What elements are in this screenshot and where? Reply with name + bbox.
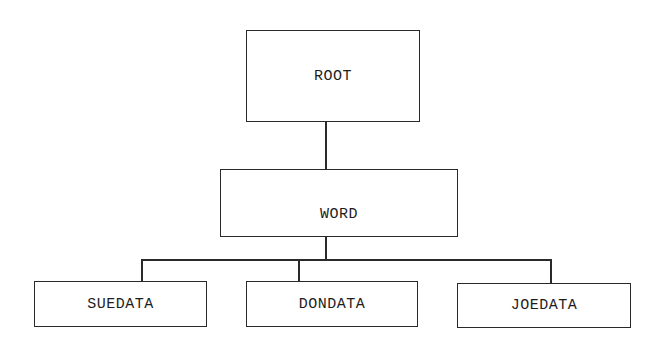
connector-bus-joedata [550, 259, 552, 283]
node-joedata-label: JOEDATA [511, 297, 578, 314]
node-dondata: DONDATA [246, 281, 418, 327]
node-suedata: SUEDATA [34, 281, 207, 327]
connector-bus [141, 259, 551, 261]
node-suedata-label: SUEDATA [87, 296, 154, 313]
tree-diagram: ROOT WORD SUEDATA DONDATA JOEDATA [0, 0, 662, 348]
node-word-label: WORD [320, 206, 358, 223]
node-word: WORD [220, 169, 458, 237]
connector-bus-dondata [298, 259, 300, 281]
node-dondata-label: DONDATA [299, 296, 366, 313]
node-root: ROOT [246, 30, 420, 122]
node-joedata: JOEDATA [457, 283, 631, 328]
node-root-label: ROOT [314, 68, 352, 85]
connector-root-word [325, 122, 327, 169]
connector-word-bus [325, 237, 327, 259]
connector-bus-suedata [141, 259, 143, 281]
